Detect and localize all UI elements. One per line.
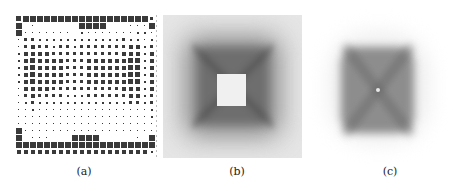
- grid-cell: [128, 58, 133, 63]
- grid-cell: [107, 16, 113, 22]
- grid-cell: [52, 94, 55, 97]
- grid-cell: [60, 116, 61, 117]
- grid-cell: [116, 102, 118, 104]
- grid-cell: [95, 109, 96, 110]
- grid-cell: [101, 94, 104, 97]
- grid-cell: [123, 109, 124, 110]
- grid-cell: [151, 109, 153, 111]
- grid-cell: [101, 80, 105, 84]
- grid-cell: [136, 45, 140, 49]
- grid-cell: [24, 66, 28, 70]
- grid-cell: [115, 94, 118, 97]
- grid-cell: [30, 72, 35, 77]
- grid-cell: [60, 130, 61, 131]
- grid-cell: [73, 150, 77, 154]
- grid-cell: [137, 130, 138, 131]
- grid-cell: [16, 16, 21, 21]
- grid-cell: [45, 80, 49, 84]
- grid-cell: [136, 52, 140, 56]
- grid-cell: [87, 94, 90, 97]
- grid-cell: [32, 109, 34, 111]
- grid-cell: [45, 94, 48, 97]
- grid-cell: [53, 109, 54, 110]
- grid-cell: [130, 109, 131, 110]
- grid-cell: [115, 45, 118, 48]
- grid-cell: [65, 142, 71, 148]
- grid-cell: [115, 80, 119, 84]
- grid-cell: [101, 73, 105, 77]
- grid-cell: [115, 66, 119, 70]
- grid-cell: [142, 16, 148, 22]
- panel-b-label: (b): [217, 165, 257, 178]
- grid-cell: [74, 130, 75, 131]
- grid-cell: [18, 88, 19, 89]
- grid-cell: [102, 109, 103, 110]
- grid-cell: [67, 109, 68, 110]
- grid-cell: [87, 87, 90, 90]
- grid-cell: [137, 39, 139, 41]
- grid-cell: [30, 58, 35, 63]
- grid-cell: [116, 130, 117, 131]
- grid-cell: [129, 94, 133, 98]
- grid-cell: [87, 73, 91, 77]
- grid-cell: [53, 123, 54, 124]
- grid-cell: [129, 150, 133, 154]
- panel-c-map: [315, 15, 445, 158]
- grid-cell: [137, 109, 138, 110]
- grid-cell: [24, 52, 28, 56]
- grid-cell: [87, 80, 91, 84]
- grid-cell: [53, 46, 55, 48]
- grid-cell: [130, 25, 131, 26]
- grid-cell: [25, 109, 26, 110]
- grid-cell: [128, 16, 134, 22]
- grid-cell: [18, 60, 20, 62]
- grid-cell: [129, 87, 133, 91]
- grid-cell: [121, 142, 127, 148]
- grid-cell: [144, 32, 146, 34]
- grid-cell: [18, 39, 19, 40]
- grid-cell: [18, 74, 20, 76]
- grid-cell: [121, 16, 127, 22]
- grid-cell: [59, 80, 63, 84]
- grid-cell: [66, 87, 69, 90]
- grid-cell: [135, 58, 140, 63]
- grid-cell: [79, 142, 85, 148]
- grid-cell: [25, 130, 26, 131]
- grid-cell: [45, 150, 49, 154]
- grid-cell: [44, 16, 50, 22]
- grid-cell: [81, 130, 82, 131]
- grid-cell: [151, 151, 153, 153]
- grid-cell: [86, 135, 92, 141]
- grid-cell: [59, 52, 62, 55]
- grid-cell: [144, 123, 145, 124]
- grid-cell: [135, 16, 141, 22]
- grid-cell: [115, 87, 118, 90]
- grid-cell: [108, 80, 112, 84]
- grid-cell: [45, 45, 48, 48]
- grid-cell: [32, 137, 33, 138]
- grid-cell: [115, 150, 119, 154]
- grid-cell: [38, 73, 42, 77]
- grid-cell: [122, 38, 125, 41]
- grid-cell: [122, 59, 126, 63]
- grid-cell: [67, 123, 68, 124]
- grid-cell: [128, 79, 133, 84]
- grid-cell: [94, 52, 97, 55]
- grid-cell: [107, 142, 113, 148]
- grid-cell: [150, 45, 153, 48]
- grid-cell: [116, 123, 117, 124]
- grid-cell: [39, 39, 41, 41]
- grid-cell: [137, 116, 138, 117]
- grid-cell: [130, 116, 131, 117]
- grid-cell: [18, 46, 19, 47]
- grid-cell: [24, 87, 28, 91]
- grid-cell: [102, 32, 103, 33]
- grid-cell: [24, 38, 27, 41]
- grid-cell: [59, 45, 62, 48]
- grid-cell: [144, 25, 145, 26]
- grid-cell: [53, 32, 54, 33]
- grid-cell: [149, 142, 155, 148]
- grid-cell: [81, 95, 83, 97]
- grid-cell: [87, 45, 90, 48]
- grid-cell: [116, 116, 117, 117]
